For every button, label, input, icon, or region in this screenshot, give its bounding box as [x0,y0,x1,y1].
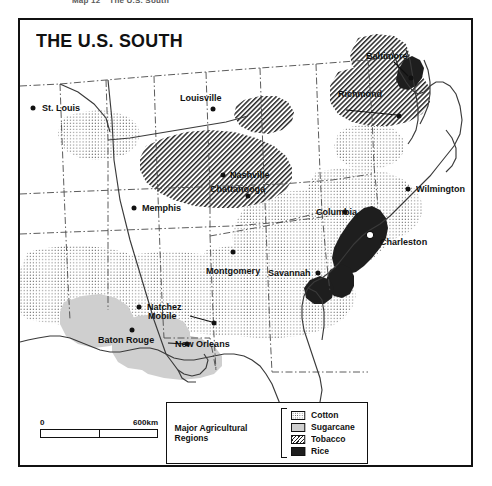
city-label-new-orleans: New Orleans [175,338,230,349]
city-dot-montgomery [231,250,236,255]
city-dot-st-louis [31,106,36,111]
city-label-wilmington: Wilmington [416,183,465,194]
caption-number: Map 12 [72,0,100,5]
city-label-baton-rouge: Baton Rouge [98,334,154,345]
city-label-columbia: Columbia [316,206,357,217]
city-label-louisville: Louisville [180,92,222,103]
legend-label-sugarcane: Sugarcane [311,422,355,432]
city-label-memphis: Memphis [142,202,181,213]
legend-item-cotton: Cotton [291,409,357,421]
rice-swatch-icon [291,447,305,456]
city-label-nashville: Nashville [230,169,270,180]
city-label-baltimore: Baltimore [366,50,408,61]
sugarcane-swatch-icon [291,423,305,432]
legend-items: Cotton Sugarcane Tobacco Rice [287,409,357,457]
city-dot-wilmington [406,187,411,192]
legend-title: Major Agricultural Regions [167,423,273,444]
city-label-richmond: Richmond [338,88,382,99]
city-dot-richmond [397,114,402,119]
city-label-charleston: Charleston [380,236,427,247]
city-label-chattanooga: Chattanooga [210,183,265,194]
legend-label-tobacco: Tobacco [311,434,346,444]
legend-item-sugarcane: Sugarcane [291,421,357,433]
scale-end-label: 600km [133,418,158,427]
city-dot-natchez [137,305,142,310]
legend-label-cotton: Cotton [311,410,339,420]
legend-label-rice: Rice [311,446,329,456]
city-dot-louisville [211,107,216,112]
figure-caption: Map 12The U.S. South [72,0,169,5]
city-dot-baltimore [409,76,414,81]
map-page: Map 12The U.S. South [0,0,492,486]
cotton-swatch-icon [291,411,305,420]
city-dot-memphis [132,206,137,211]
city-dot-nashville [221,173,226,178]
scale-bar: 0 600km [40,418,158,438]
city-dot-savannah [316,271,321,276]
legend-item-rice: Rice [291,445,357,457]
city-label-montgomery: Montgomery [206,265,260,276]
scale-bar-graphic [40,429,158,438]
map-legend: Major Agricultural Regions Cotton Sugarc… [166,402,368,464]
map-frame: THE U.S. SOUTH Baltimore Richmond St. Lo… [18,18,473,467]
city-label-savannah: Savannah [268,267,311,278]
city-dot-mobile [212,321,217,326]
legend-item-tobacco: Tobacco [291,433,357,445]
city-label-mobile: Mobile [148,310,177,321]
city-dot-chattanooga [246,194,251,199]
map-title: THE U.S. SOUTH [36,30,183,52]
city-label-st-louis: St. Louis [42,102,80,113]
tobacco-swatch-icon [291,435,305,444]
caption-text: The U.S. South [109,0,169,5]
city-dot-baton-rouge [130,328,135,333]
scale-start-label: 0 [40,418,44,427]
city-marker-charleston [366,231,373,238]
